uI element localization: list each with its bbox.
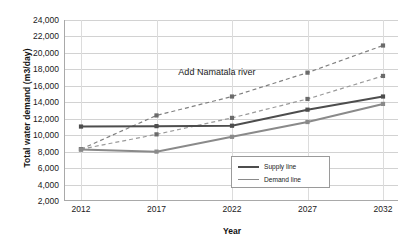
- x-tick-label: 2017: [127, 204, 187, 214]
- data-point-marker: [154, 124, 158, 128]
- y-axis-title: Total water demand (m3/day): [22, 13, 32, 203]
- data-point-marker: [381, 102, 385, 106]
- legend-item-demand: Demand line: [238, 174, 329, 185]
- water-demand-chart: Total water demand (m3/day) 24,00022,000…: [0, 0, 417, 247]
- y-tick-label: 18,000: [5, 64, 59, 74]
- legend-label-demand: Demand line: [264, 176, 301, 183]
- legend-label-supply: Supply line: [264, 163, 296, 170]
- y-tick-label: 16,000: [5, 81, 59, 91]
- legend-item-supply: Supply line: [238, 161, 329, 172]
- data-point-marker: [230, 94, 234, 98]
- y-tick-label: 6,000: [5, 163, 59, 173]
- x-tick-label: 2022: [202, 204, 262, 214]
- data-point-marker: [230, 135, 234, 139]
- data-point-marker: [381, 43, 385, 47]
- y-tick-label: 14,000: [5, 97, 59, 107]
- data-point-marker: [79, 147, 83, 151]
- y-tick-label: 22,000: [5, 31, 59, 41]
- data-point-marker: [154, 150, 158, 154]
- y-tick-label: 8,000: [5, 147, 59, 157]
- series-line: [81, 97, 383, 127]
- x-tick-label: 2012: [51, 204, 111, 214]
- data-point-marker: [230, 116, 234, 120]
- legend-swatch-demand-icon: [238, 179, 259, 180]
- y-tick-label: 20,000: [5, 48, 59, 58]
- data-point-marker: [305, 97, 309, 101]
- x-tick-label: 2032: [353, 204, 413, 214]
- data-point-marker: [381, 94, 385, 98]
- data-point-marker: [230, 124, 234, 128]
- x-tick-label: 2027: [278, 204, 338, 214]
- annotation-label: Add Namatala river: [178, 67, 255, 77]
- y-tick-label: 12,000: [5, 114, 59, 124]
- y-tick-label: 24,000: [5, 15, 59, 25]
- data-point-marker: [381, 74, 385, 78]
- chart-legend: Supply line Demand line: [231, 156, 330, 188]
- x-axis-title: Year: [65, 226, 399, 236]
- data-point-marker: [154, 113, 158, 117]
- data-point-marker: [305, 108, 309, 112]
- data-point-marker: [305, 71, 309, 75]
- y-tick-label: 4,000: [5, 180, 59, 190]
- legend-swatch-supply-icon: [238, 166, 259, 168]
- data-point-marker: [154, 132, 158, 136]
- y-tick-label: 10,000: [5, 130, 59, 140]
- data-point-marker: [79, 124, 83, 128]
- data-point-marker: [305, 120, 309, 124]
